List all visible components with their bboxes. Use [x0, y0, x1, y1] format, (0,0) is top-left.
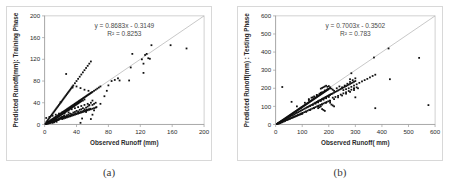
data-point [74, 82, 76, 84]
data-point [71, 113, 73, 115]
x-axis-tick-label: 160 [167, 128, 178, 135]
data-point [345, 88, 347, 90]
data-point [79, 109, 81, 111]
data-point [86, 109, 88, 111]
data-point [117, 77, 119, 79]
data-point [343, 92, 345, 94]
data-point [388, 48, 390, 50]
data-point [79, 76, 81, 78]
data-point [85, 67, 87, 69]
figure-container: 0408012016020004080120160200Observed Run… [0, 0, 449, 196]
data-point [316, 94, 318, 96]
data-point [95, 89, 97, 91]
data-point [85, 107, 87, 109]
data-point [339, 86, 341, 88]
chart-panel-a: 0408012016020004080120160200Observed Run… [6, 6, 212, 161]
regression-equation-label: y = 0.7003x - 0.3502 [326, 22, 386, 30]
data-point [312, 96, 314, 98]
scatter-chart-b: 01002003004005006000100200300400500600Ob… [238, 7, 442, 160]
data-point [93, 107, 95, 109]
x-axis-tick-label: 40 [73, 128, 80, 135]
data-point [60, 117, 62, 119]
data-point [88, 90, 90, 92]
scatter-chart-a: 0408012016020004080120160200Observed Run… [7, 7, 211, 160]
data-point [84, 99, 86, 101]
data-point [90, 102, 92, 104]
data-point [114, 79, 116, 81]
data-point [130, 67, 132, 69]
x-axis-tick-label: 200 [324, 128, 335, 135]
data-point [348, 87, 350, 89]
x-axis-tick-label: 600 [430, 128, 441, 135]
data-point [354, 80, 356, 82]
data-point [82, 107, 84, 109]
data-point [98, 87, 100, 89]
data-point [90, 118, 92, 120]
data-point [69, 113, 71, 115]
data-point [49, 122, 51, 124]
data-point [80, 87, 82, 89]
data-point [80, 74, 82, 76]
x-axis-title: Observed Runoff (mm) [90, 139, 159, 147]
x-axis-tick-label: 500 [403, 128, 414, 135]
data-point [320, 105, 322, 107]
data-point [56, 119, 58, 121]
data-point [332, 97, 334, 99]
y-axis-tick-label: 400 [261, 48, 272, 55]
data-point [144, 54, 146, 56]
data-point [52, 115, 54, 117]
data-point [141, 58, 143, 60]
data-point [84, 89, 86, 91]
data-point [77, 106, 79, 108]
chart-panel-b: 01002003004005006000100200300400500600Ob… [237, 6, 443, 161]
data-point [353, 85, 355, 87]
data-point [64, 111, 66, 113]
data-point [76, 80, 78, 82]
data-point [80, 111, 82, 113]
data-point [87, 65, 89, 67]
data-point [320, 92, 322, 94]
data-point [303, 111, 305, 113]
data-point [96, 106, 98, 108]
data-point [55, 114, 57, 116]
data-point [350, 86, 352, 88]
data-point [333, 105, 335, 107]
y-axis-tick-label: 100 [261, 103, 272, 110]
data-point [307, 106, 309, 108]
data-point [356, 86, 358, 88]
y-axis-tick-label: 200 [30, 12, 41, 19]
data-point [50, 121, 52, 123]
data-point [80, 105, 82, 107]
data-point [75, 113, 77, 115]
data-point [95, 102, 97, 104]
y-axis-tick-label: 600 [261, 12, 272, 19]
x-axis-tick-label: 400 [377, 128, 388, 135]
data-point [100, 86, 102, 88]
data-point [106, 90, 108, 92]
data-point [47, 122, 49, 124]
data-point [341, 86, 343, 88]
data-point [53, 120, 55, 122]
data-point [100, 103, 102, 105]
data-point [92, 100, 94, 102]
data-point [366, 78, 368, 80]
x-axis-tick-label: 100 [297, 128, 308, 135]
data-point [93, 90, 95, 92]
data-point [77, 78, 79, 80]
data-point [309, 109, 311, 111]
data-point [88, 105, 90, 107]
data-point [81, 111, 83, 113]
data-point [428, 104, 430, 106]
data-point [93, 109, 95, 111]
y-axis-title: Predicted Runoff(mm): Training Phase [12, 12, 20, 127]
data-point [76, 86, 78, 88]
data-point [329, 100, 331, 102]
data-point [333, 90, 335, 92]
data-point [345, 91, 347, 93]
data-point [80, 108, 82, 110]
x-axis-tick-label: 0 [43, 128, 47, 135]
data-point [108, 84, 110, 86]
data-point [146, 53, 148, 55]
data-point [300, 107, 302, 109]
data-point [84, 104, 86, 106]
